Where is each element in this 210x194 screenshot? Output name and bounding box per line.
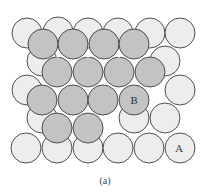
sphere-a: [134, 133, 164, 163]
hole: [117, 54, 120, 57]
sphere-b: [104, 57, 134, 87]
sphere-b: [42, 57, 72, 87]
hole: [86, 108, 89, 111]
sphere-b: [27, 85, 57, 115]
sphere-a: [165, 18, 195, 48]
sphere-b: [88, 85, 118, 115]
sphere-a: [150, 103, 180, 133]
sphere-a: [11, 133, 41, 163]
sphere-b: [119, 29, 149, 59]
sphere-b: [58, 85, 88, 115]
sphere-b: [58, 29, 88, 59]
label-a: A: [174, 143, 183, 154]
hole: [71, 79, 74, 82]
sphere-b: [135, 57, 165, 87]
sphere-b: [42, 113, 72, 143]
hole: [101, 79, 104, 82]
hole: [56, 54, 59, 57]
sphere-b: [28, 29, 58, 59]
sphere-b: [89, 29, 119, 59]
label-b: B: [130, 95, 137, 106]
close-packed-layers-diagram: A B (a): [0, 0, 210, 194]
hole: [56, 108, 59, 111]
figure-caption: (a): [99, 175, 110, 187]
sphere-a: [103, 133, 133, 163]
sphere-b: [73, 57, 103, 87]
sphere-b: [73, 113, 103, 143]
hole: [132, 79, 135, 82]
sphere-a: [165, 75, 195, 105]
hole: [86, 54, 89, 57]
